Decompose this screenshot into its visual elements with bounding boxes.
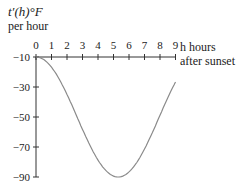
x-tick-label: 4 [95,39,101,51]
axes: 0123456789−10−30−50−70−90 [13,39,179,183]
x-tick-label: 7 [142,39,148,51]
y-axis-label: t′(h)°F [8,4,44,19]
x-tick-label: 3 [80,39,86,51]
y-axis-label-units: per hour [8,19,48,33]
y-tick-label: −70 [13,141,31,153]
x-axis-label-units: after sunset [180,54,236,68]
x-tick-label: 0 [33,39,39,51]
curve-line [36,57,176,177]
x-tick-label: 2 [64,39,70,51]
x-tick-label: 6 [126,39,132,51]
x-tick-label: 9 [173,39,179,51]
y-tick-label: −90 [13,171,31,183]
y-tick-label: −30 [13,81,31,93]
x-tick-label: 5 [111,39,117,51]
y-tick-label: −10 [13,51,31,63]
chart: t′(h)°F per hour h hours after sunset 01… [0,0,238,191]
x-axis-label: h hours [180,40,216,54]
chart-plot: t′(h)°F per hour h hours after sunset 01… [0,0,238,191]
x-tick-label: 8 [157,39,163,51]
x-tick-label: 1 [49,39,55,51]
y-tick-label: −50 [13,111,31,123]
